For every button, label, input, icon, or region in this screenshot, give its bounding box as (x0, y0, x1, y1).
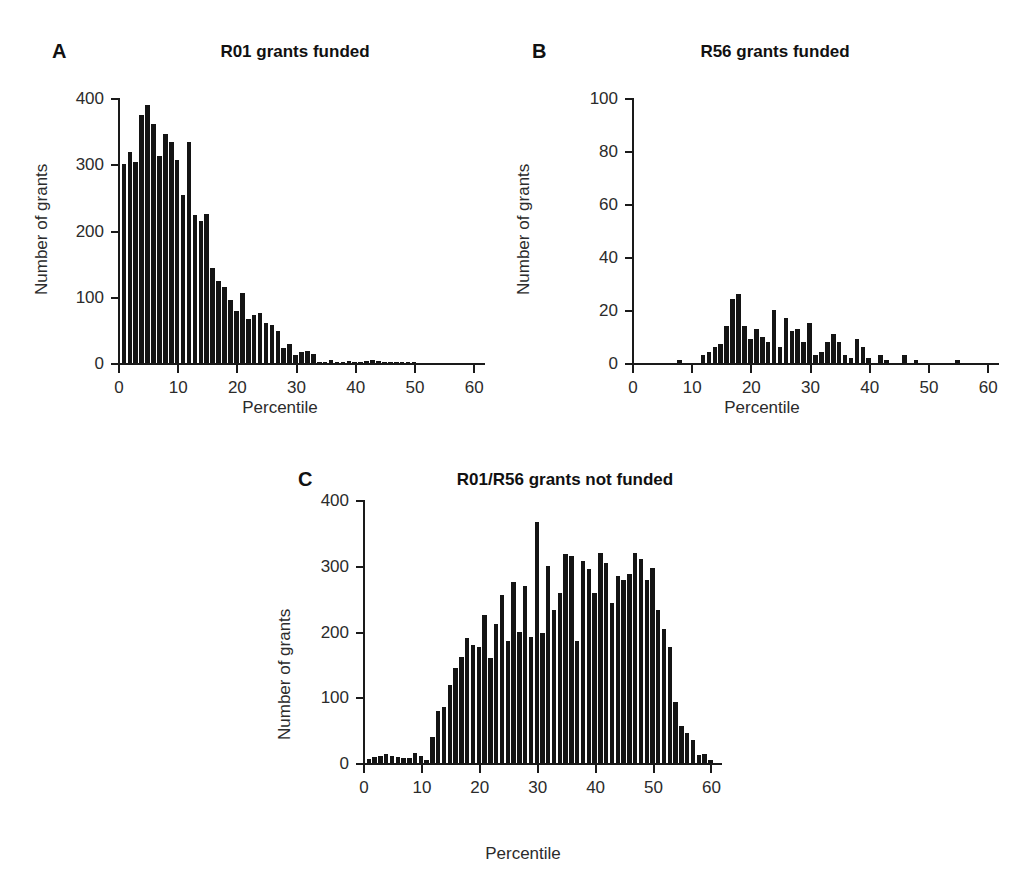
bar (702, 754, 706, 763)
bar (697, 755, 701, 763)
bar (133, 162, 138, 363)
bar (500, 595, 504, 763)
bar (175, 160, 180, 363)
a-x-tick-label: 60 (448, 379, 500, 396)
bar (691, 740, 695, 763)
bar (264, 323, 269, 363)
bar (401, 758, 405, 763)
bar (668, 647, 672, 763)
bar (299, 352, 304, 363)
c-x-tick (710, 765, 712, 773)
bar (252, 315, 257, 363)
bar (384, 754, 388, 763)
b-x-tick (750, 365, 752, 373)
bar (281, 348, 286, 363)
a-x-tick (355, 365, 357, 373)
bar (878, 355, 883, 363)
c-x-tick-label: 10 (396, 779, 448, 796)
bar (650, 568, 654, 763)
c-x-tick-label: 50 (628, 779, 680, 796)
bar (813, 355, 818, 363)
a-x-tick (177, 365, 179, 373)
panel-b-x-axis-title: Percentile (662, 398, 862, 418)
bar (471, 645, 475, 763)
panel-c: C R01/R56 grants not funded Number of gr… (245, 430, 785, 886)
bar (193, 215, 198, 363)
bar (151, 124, 156, 363)
bar (748, 339, 753, 363)
bar (677, 360, 682, 363)
c-x-tick-label: 60 (685, 779, 737, 796)
bar (412, 362, 417, 363)
bar (563, 554, 567, 763)
bar (390, 756, 394, 763)
bar (128, 152, 133, 363)
bar (707, 352, 712, 363)
a-x-tick-label: 30 (271, 379, 323, 396)
bar (914, 360, 919, 363)
bar (157, 156, 162, 363)
a-x-tick (236, 365, 238, 373)
bar (358, 362, 363, 363)
bar (311, 354, 316, 363)
bar (724, 326, 729, 363)
bar (199, 221, 204, 363)
bar (581, 561, 585, 763)
bar (376, 361, 381, 363)
bar (633, 553, 637, 763)
bar (754, 329, 759, 363)
bar (772, 310, 777, 363)
c-x-tick-label: 30 (512, 779, 564, 796)
bar (394, 362, 399, 363)
bar (685, 733, 689, 763)
bar (861, 347, 866, 363)
bar (382, 362, 387, 363)
bar (616, 576, 620, 763)
bar (424, 760, 428, 763)
bar (372, 757, 376, 763)
bar (784, 318, 789, 363)
bar (442, 707, 446, 763)
bar (506, 641, 510, 763)
bar (139, 115, 144, 363)
bar (228, 300, 233, 363)
a-x-tick (118, 365, 120, 373)
bar (396, 757, 400, 763)
c-x-tick-label: 20 (454, 779, 506, 796)
bar (287, 344, 292, 363)
bar (407, 758, 411, 763)
bar (807, 323, 812, 363)
bar (730, 299, 735, 363)
bar (169, 142, 174, 363)
bar (352, 362, 357, 363)
bar (801, 342, 806, 363)
c-x-tick (653, 765, 655, 773)
panel-a-plot-area: 01002003004000102030405060 (0, 0, 514, 400)
bar (335, 362, 340, 363)
bar (760, 337, 765, 364)
bar (367, 759, 371, 763)
bar (592, 593, 596, 763)
bar (902, 355, 907, 363)
bar (240, 293, 245, 363)
b-x-tick-label: 40 (844, 379, 896, 396)
bar (400, 362, 405, 363)
a-bar-series (0, 0, 540, 363)
bar (855, 339, 860, 363)
bar (884, 360, 889, 363)
bar (645, 580, 649, 763)
a-x-tick (473, 365, 475, 373)
bar (778, 347, 783, 363)
bar (378, 756, 382, 763)
b-x-tick (928, 365, 930, 373)
a-y-tick (111, 363, 118, 365)
bar (163, 134, 168, 363)
bar (552, 610, 556, 763)
b-x-tick (691, 365, 693, 373)
bar (662, 629, 666, 763)
bar (453, 668, 457, 763)
bar (488, 658, 492, 763)
bar (546, 566, 550, 763)
bar (517, 632, 521, 763)
a-x-tick-label: 40 (330, 379, 382, 396)
